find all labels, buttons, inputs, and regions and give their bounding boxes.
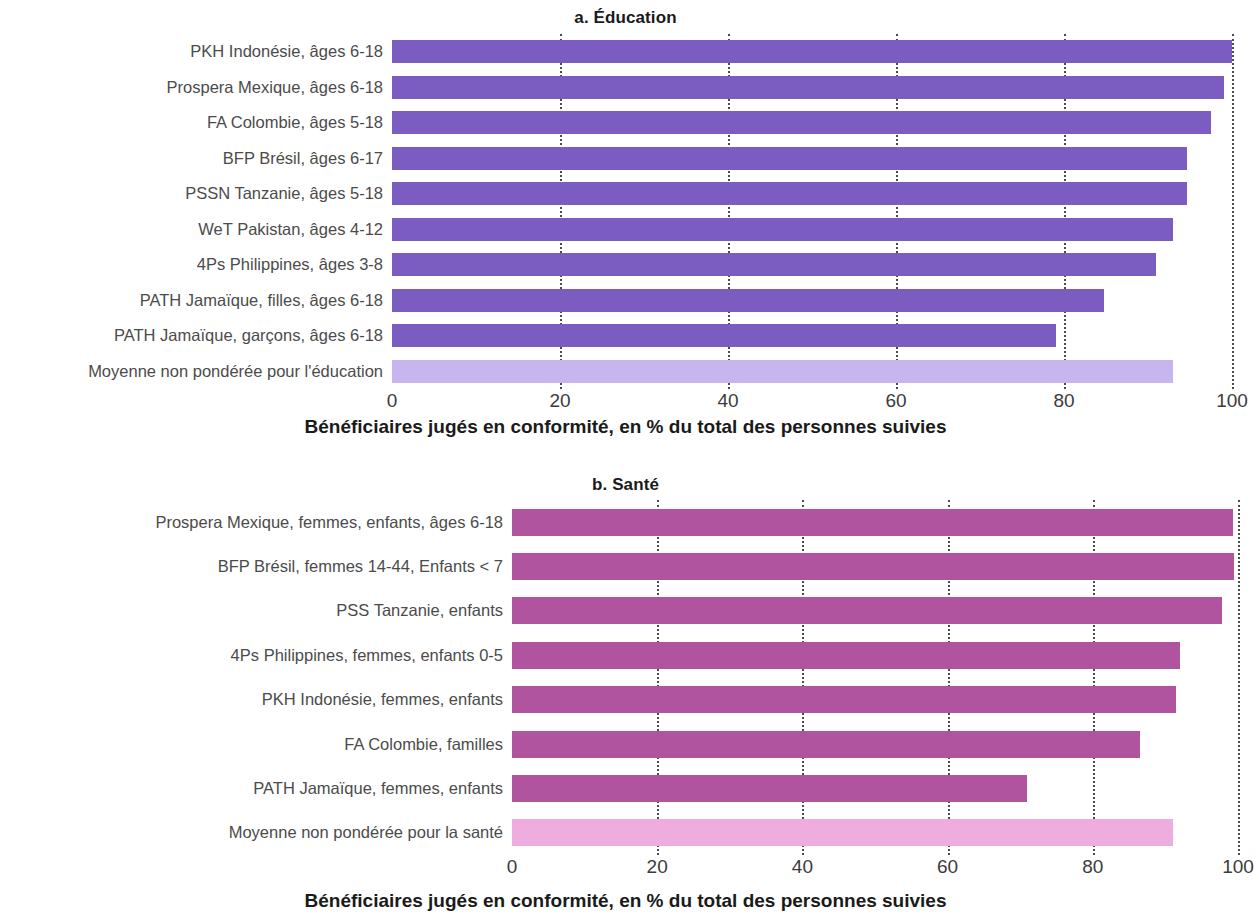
education-plot-area: PKH Indonésie, âges 6-18Prospera Mexique…: [392, 34, 1232, 389]
value-bar: [392, 147, 1187, 170]
value-bar: [392, 253, 1156, 276]
gridline-100: [1232, 34, 1234, 389]
bar-row: Prospera Mexique, âges 6-18: [392, 76, 1232, 99]
sante-x-axis-title: Bénéficiaires jugés en conformité, en % …: [0, 890, 1251, 912]
bar-row: 4Ps Philippines, âges 3-8: [392, 253, 1232, 276]
value-bar: [512, 597, 1222, 624]
x-tick-label-20: 20: [549, 391, 570, 410]
average-bar: [512, 819, 1173, 846]
category-label: Moyenne non pondérée pour l'éducation: [88, 363, 383, 380]
category-label: PATH Jamaïque, garçons, âges 6-18: [114, 327, 383, 344]
value-bar: [392, 40, 1232, 63]
bar-row: WeT Pakistan, âges 4-12: [392, 218, 1232, 241]
category-label: BFP Brésil, âges 6-17: [223, 150, 383, 167]
bar-row: 4Ps Philippines, femmes, enfants 0-5: [512, 642, 1238, 669]
sante-plot-area: Prospera Mexique, femmes, enfants, âges …: [512, 500, 1238, 855]
category-label: BFP Brésil, femmes 14-44, Enfants < 7: [218, 558, 503, 575]
bar-row: PKH Indonésie, femmes, enfants: [512, 686, 1238, 713]
bar-row: PSS Tanzanie, enfants: [512, 597, 1238, 624]
panel-education: a. Éducation PKH Indonésie, âges 6-18Pro…: [0, 0, 1251, 455]
x-tick-label-40: 40: [792, 857, 813, 876]
category-label: PKH Indonésie, âges 6-18: [190, 43, 383, 60]
category-label: Prospera Mexique, âges 6-18: [167, 79, 383, 96]
x-tick-label-0: 0: [387, 391, 398, 410]
bar-row: Moyenne non pondérée pour la santé: [512, 819, 1238, 846]
category-label: PKH Indonésie, femmes, enfants: [262, 691, 503, 708]
value-bar: [392, 218, 1173, 241]
value-bar: [512, 775, 1027, 802]
bar-row: BFP Brésil, âges 6-17: [392, 147, 1232, 170]
value-bar: [512, 731, 1140, 758]
value-bar: [512, 509, 1233, 536]
value-bar: [512, 642, 1180, 669]
category-label: PATH Jamaïque, femmes, enfants: [253, 780, 503, 797]
value-bar: [392, 182, 1187, 205]
category-label: Moyenne non pondérée pour la santé: [229, 824, 503, 841]
education-bar-rows: PKH Indonésie, âges 6-18Prospera Mexique…: [392, 34, 1232, 389]
sante-bar-rows: Prospera Mexique, femmes, enfants, âges …: [512, 500, 1238, 855]
sante-x-axis-ticks: 020406080100: [512, 857, 1238, 887]
category-label: PATH Jamaïque, filles, âges 6-18: [140, 292, 383, 309]
education-x-axis-title: Bénéficiaires jugés en conformité, en % …: [0, 416, 1251, 438]
panel-education-title: a. Éducation: [0, 8, 1251, 28]
value-bar: [512, 553, 1234, 580]
bar-row: PATH Jamaïque, garçons, âges 6-18: [392, 324, 1232, 347]
x-tick-label-100: 100: [1216, 391, 1248, 410]
category-label: PSSN Tanzanie, âges 5-18: [185, 185, 383, 202]
bar-row: Prospera Mexique, femmes, enfants, âges …: [512, 509, 1238, 536]
category-label: 4Ps Philippines, âges 3-8: [197, 256, 383, 273]
value-bar: [392, 289, 1104, 312]
value-bar: [392, 111, 1211, 134]
value-bar: [512, 686, 1176, 713]
bar-row: PKH Indonésie, âges 6-18: [392, 40, 1232, 63]
bar-row: PATH Jamaïque, filles, âges 6-18: [392, 289, 1232, 312]
value-bar: [392, 76, 1224, 99]
category-label: Prospera Mexique, femmes, enfants, âges …: [155, 514, 503, 531]
x-tick-label-80: 80: [1053, 391, 1074, 410]
average-bar: [392, 360, 1173, 383]
category-label: WeT Pakistan, âges 4-12: [198, 221, 383, 238]
x-tick-label-20: 20: [647, 857, 668, 876]
category-label: FA Colombie, familles: [344, 736, 503, 753]
x-tick-label-100: 100: [1222, 857, 1254, 876]
category-label: FA Colombie, âges 5-18: [207, 114, 383, 131]
bar-row: FA Colombie, âges 5-18: [392, 111, 1232, 134]
bar-row: PATH Jamaïque, femmes, enfants: [512, 775, 1238, 802]
x-tick-label-60: 60: [937, 857, 958, 876]
gridline-100: [1238, 500, 1240, 855]
value-bar: [392, 324, 1056, 347]
category-label: 4Ps Philippines, femmes, enfants 0-5: [231, 647, 503, 664]
bar-row: FA Colombie, familles: [512, 731, 1238, 758]
category-label: PSS Tanzanie, enfants: [336, 602, 503, 619]
bar-row: Moyenne non pondérée pour l'éducation: [392, 360, 1232, 383]
x-tick-label-0: 0: [507, 857, 518, 876]
bar-row: PSSN Tanzanie, âges 5-18: [392, 182, 1232, 205]
x-tick-label-60: 60: [885, 391, 906, 410]
panel-sante-title: b. Santé: [0, 475, 1251, 495]
bar-row: BFP Brésil, femmes 14-44, Enfants < 7: [512, 553, 1238, 580]
x-tick-label-80: 80: [1082, 857, 1103, 876]
x-tick-label-40: 40: [717, 391, 738, 410]
